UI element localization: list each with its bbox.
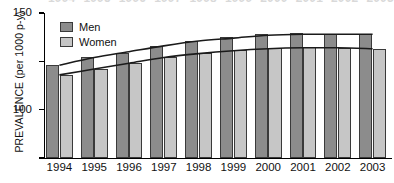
x-axis-labels: 1994199519961997199819992000200120022003 [44,161,392,179]
y-tick-label: 150 [13,6,32,18]
cropped-text-fragment: 2003 [366,0,394,5]
bar-group [290,13,317,158]
cropped-text-fragment: 1998 [190,0,218,5]
x-tick-label: 2002 [325,161,351,173]
bar-women [164,57,177,158]
x-tick-label: 2001 [290,161,316,173]
cropped-text-fragment: 1997 [154,0,182,5]
bar-group [185,13,212,158]
cropped-top-text-row: 1994199519961997199819992000200120022003 [0,0,394,7]
x-tick-label: 1997 [151,161,177,173]
bar-men [359,34,372,158]
bar-women [373,49,386,158]
bar-group [255,13,282,158]
bar-men [220,37,233,158]
x-tick-label: 1996 [116,161,142,173]
bar-men [81,57,94,158]
bar-men [255,34,268,158]
bar-men [185,41,198,158]
legend-item-men: Men [60,21,117,33]
bar-group [116,13,143,158]
cropped-text-fragment: 2000 [260,0,288,5]
cropped-text-fragment: 2002 [331,0,359,5]
cropped-text-fragment: 1994 [48,0,76,5]
cropped-text-fragment: 1999 [225,0,253,5]
bar-men [46,65,59,158]
x-tick-label: 2003 [360,161,386,173]
x-tick-label: 1998 [186,161,212,173]
y-axis-title: PREVALENCE (per 1000 p-y) [13,2,25,162]
bar-women [338,48,351,158]
plot-area: 050100150 Men Women [44,13,392,158]
bar-group [220,13,247,158]
bar-women [234,50,247,158]
x-tick-label: 1995 [81,161,107,173]
cropped-text-fragment: 1995 [83,0,111,5]
bar-group [359,13,386,158]
bar-women [199,53,212,158]
legend-label-men: Men [79,21,100,33]
bar-women [94,69,107,158]
legend-swatch-men-icon [60,22,73,32]
bar-women [268,48,281,158]
y-tick-label: 100 [13,103,32,115]
bar-men [116,53,129,158]
bar-group [324,13,351,158]
legend-item-women: Women [60,36,117,48]
bar-women [303,47,316,158]
bar-men [290,33,303,158]
cropped-text-fragment: 1996 [119,0,147,5]
chart-legend: Men Women [60,21,117,51]
x-axis-line [44,158,392,159]
cropped-top-text-inner: 1994199519961997199819992000200120022003 [48,0,394,5]
x-tick-label: 1999 [221,161,247,173]
bar-group [150,13,177,158]
bar-women [129,63,142,158]
prevalence-bar-chart: 1994199519961997199819992000200120022003… [0,0,394,183]
bar-women [60,75,73,158]
legend-swatch-women-icon [60,37,73,47]
cropped-text-fragment: 2001 [296,0,324,5]
legend-label-women: Women [79,36,117,48]
x-tick-label: 1994 [47,161,73,173]
bar-men [150,46,163,158]
x-tick-label: 2000 [255,161,281,173]
bar-men [324,34,337,158]
